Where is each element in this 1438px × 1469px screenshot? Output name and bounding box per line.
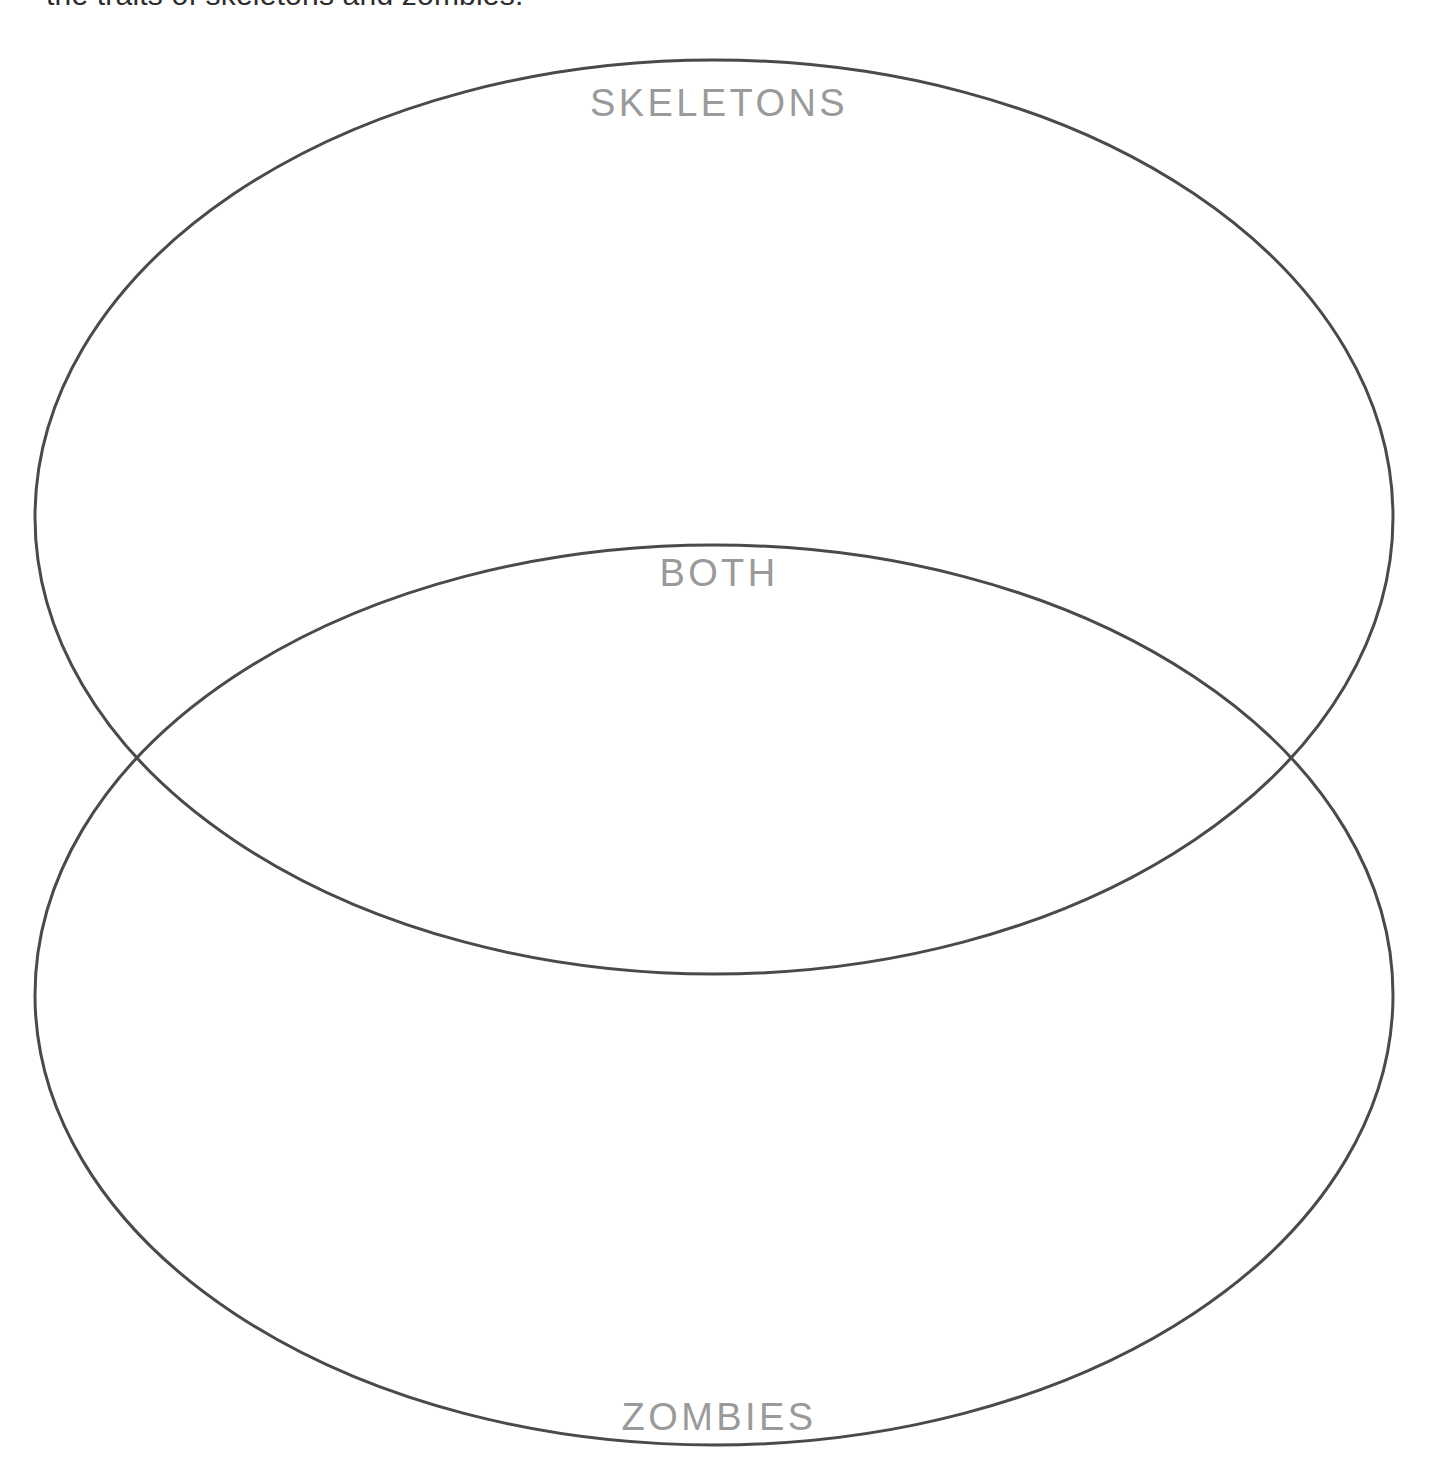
venn-diagram <box>0 0 1438 1469</box>
zombies-ellipse[interactable] <box>35 545 1393 1445</box>
venn-label-skeletons: SKELETONS <box>0 82 1438 125</box>
venn-diagram-svg <box>0 0 1438 1469</box>
skeletons-ellipse[interactable] <box>35 60 1393 974</box>
venn-diagram-worksheet: the traits of skeletons and zombies. SKE… <box>0 0 1438 1469</box>
venn-label-both: BOTH <box>0 552 1438 595</box>
venn-label-zombies: ZOMBIES <box>0 1396 1438 1439</box>
